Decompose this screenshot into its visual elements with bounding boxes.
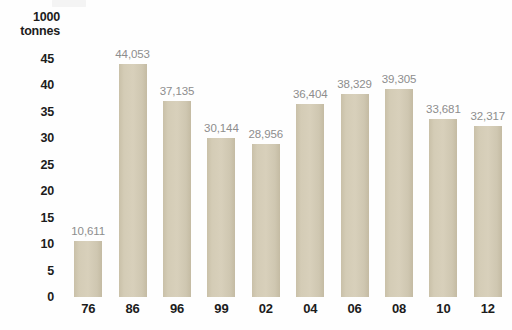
bar-group[interactable]: 28,95602 [252, 0, 280, 330]
plot-area: 10,6117644,0538637,1359630,1449928,95602… [60, 0, 512, 330]
bar-value-label: 30,144 [204, 122, 239, 134]
x-axis-tick-label: 76 [81, 301, 95, 316]
x-axis-tick-label: 86 [126, 301, 140, 316]
bar-group[interactable]: 30,14499 [207, 0, 235, 330]
y-axis-tick-label: 0 [0, 290, 54, 304]
x-axis-tick-label: 02 [259, 301, 273, 316]
y-axis-tick-label: 15 [0, 211, 54, 225]
bar[interactable] [74, 241, 102, 297]
y-axis-tick-label: 20 [0, 184, 54, 198]
bar-value-label: 38,329 [337, 78, 372, 90]
y-axis-tick-label: 35 [0, 105, 54, 119]
x-axis-tick-label: 99 [214, 301, 228, 316]
bar-group[interactable]: 32,31712 [474, 0, 502, 330]
bar-value-label: 44,053 [115, 48, 150, 60]
bar-group[interactable]: 39,30508 [385, 0, 413, 330]
x-axis-tick-label: 06 [348, 301, 362, 316]
bar-group[interactable]: 44,05386 [119, 0, 147, 330]
bar[interactable] [474, 126, 502, 297]
bar[interactable] [119, 64, 147, 297]
y-axis-tick-label: 10 [0, 237, 54, 251]
bar-group[interactable]: 33,68110 [429, 0, 457, 330]
x-axis-tick-label: 08 [392, 301, 406, 316]
y-axis-tick-label: 5 [0, 264, 54, 278]
bar-group[interactable]: 37,13596 [163, 0, 191, 330]
bar-chart: 1000 tonnes 051015202530354045 10,611764… [0, 0, 512, 330]
bar-value-label: 10,611 [71, 225, 105, 237]
bar[interactable] [385, 89, 413, 297]
bar[interactable] [296, 104, 324, 297]
y-axis-tick-label: 25 [0, 158, 54, 172]
bar-value-label: 32,317 [471, 110, 506, 122]
bar[interactable] [429, 119, 457, 297]
y-axis: 051015202530354045 [0, 0, 60, 330]
bar-value-label: 39,305 [382, 73, 417, 85]
y-axis-tick-label: 30 [0, 131, 54, 145]
bar-value-label: 33,681 [426, 103, 461, 115]
bar-value-label: 37,135 [160, 85, 195, 97]
bar-group[interactable]: 36,40404 [296, 0, 324, 330]
bar-value-label: 36,404 [293, 88, 328, 100]
bar[interactable] [252, 144, 280, 297]
x-axis-tick-label: 04 [303, 301, 317, 316]
x-axis-tick-label: 10 [436, 301, 450, 316]
bar[interactable] [207, 138, 235, 297]
x-axis-tick-label: 12 [481, 301, 495, 316]
y-axis-tick-label: 40 [0, 78, 54, 92]
bar-group[interactable]: 38,32906 [341, 0, 369, 330]
x-axis-tick-label: 96 [170, 301, 184, 316]
y-axis-tick-label: 45 [0, 52, 54, 66]
bar[interactable] [341, 94, 369, 297]
bar-value-label: 28,956 [249, 128, 284, 140]
bar[interactable] [163, 101, 191, 297]
bar-group[interactable]: 10,61176 [74, 0, 102, 330]
